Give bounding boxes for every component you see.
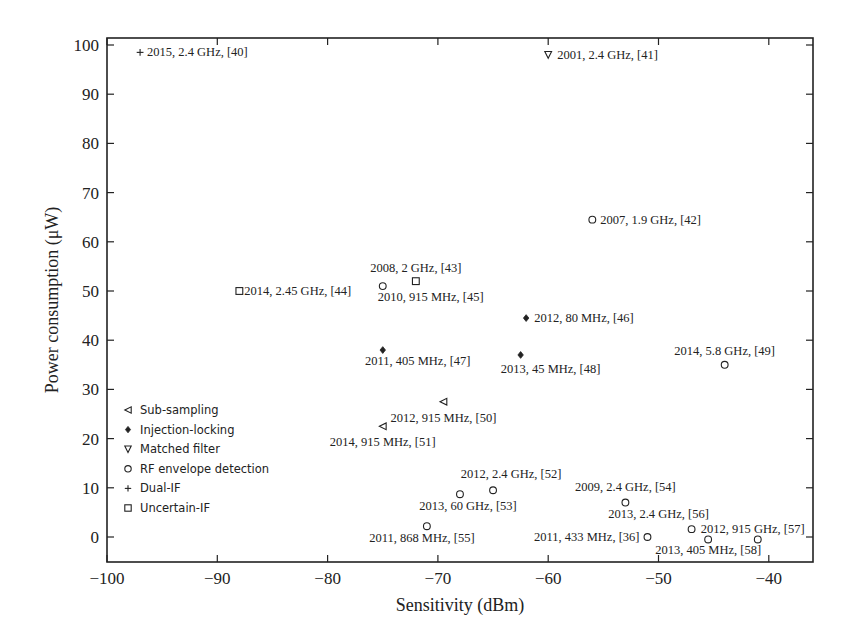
diamond-marker-icon (380, 347, 385, 354)
data-point: 2008, 2 GHz, [43] (370, 261, 461, 284)
y-tick-label: 100 (74, 36, 100, 55)
square-marker-icon (236, 288, 243, 295)
data-point-label: 2011, 433 MHz, [36] (534, 530, 639, 544)
triangle-down-marker-icon (545, 51, 552, 58)
data-point: 2013, 2.4 GHz, [56] (608, 507, 709, 532)
data-point: 2014, 2.45 GHz, [44] (236, 284, 351, 298)
y-tick-label: 10 (82, 479, 99, 498)
data-point-label: 2012, 915 GHz, [57] (701, 522, 805, 536)
triangle-left-marker-icon (125, 407, 131, 413)
legend-item: Uncertain-IF (125, 501, 210, 515)
series-matched-filter: 2001, 2.4 GHz, [41] (545, 48, 658, 62)
triangle-down-marker-icon (125, 446, 131, 452)
data-point-label: 2012, 2.4 GHz, [52] (461, 467, 562, 481)
data-point-label: 2014, 2.45 GHz, [44] (244, 284, 351, 298)
legend-item: Injection-locking (125, 423, 234, 437)
circle-marker-icon (705, 536, 712, 543)
data-point-label: 2008, 2 GHz, [43] (370, 261, 461, 275)
legend-item: RF envelope detection (125, 462, 269, 476)
x-tick-label: −40 (756, 569, 783, 588)
data-point-label: 2001, 2.4 GHz, [41] (557, 48, 658, 62)
y-axis-title: Power consumption (μW) (42, 207, 63, 394)
circle-marker-icon (644, 534, 651, 541)
plus-marker-icon (137, 49, 144, 56)
series-dual-if: 2015, 2.4 GHz, [40] (137, 45, 248, 59)
data-point-label: 2013, 405 MHz, [58] (655, 543, 761, 557)
square-marker-icon (125, 505, 131, 511)
data-point-label: 2013, 2.4 GHz, [56] (608, 507, 709, 521)
series-sub-sampling: 2012, 915 MHz, [50]2014, 915 MHz, [51] (330, 398, 497, 449)
scatter-chart: −100−90−80−70−60−50−40 01020304050607080… (0, 0, 855, 643)
circle-marker-icon (721, 361, 728, 368)
circle-marker-icon (379, 283, 386, 290)
data-point-label: 2014, 915 MHz, [51] (330, 435, 436, 449)
circle-marker-icon (688, 526, 695, 533)
triangle-left-marker-icon (440, 398, 447, 405)
x-tick-label: −80 (314, 569, 341, 588)
data-point-label: 2011, 868 MHz, [55] (369, 531, 474, 545)
data-point-label: 2007, 1.9 GHz, [42] (600, 213, 701, 227)
y-tick-label: 80 (82, 134, 99, 153)
legend: Sub-samplingInjection-lockingMatched fil… (125, 403, 269, 515)
y-tick-label: 90 (82, 85, 99, 104)
circle-marker-icon (125, 466, 131, 472)
data-point-label: 2009, 2.4 GHz, [54] (575, 480, 676, 494)
data-point: 2011, 405 MHz, [47] (365, 347, 470, 368)
data-point: 2012, 80 MHz, [46] (523, 311, 633, 325)
data-point: 2010, 915 MHz, [45] (378, 283, 484, 304)
circle-marker-icon (457, 491, 464, 498)
data-point: 2013, 60 GHz, [53] (419, 491, 517, 513)
y-tick-label: 60 (82, 233, 99, 252)
diamond-marker-icon (523, 315, 528, 322)
y-tick-label: 50 (82, 282, 99, 301)
diamond-marker-icon (518, 352, 523, 359)
legend-label: Injection-locking (140, 423, 234, 437)
data-points: 2012, 915 MHz, [50]2014, 915 MHz, [51]20… (137, 45, 805, 557)
legend-label: Uncertain-IF (140, 501, 210, 515)
y-tick-label: 40 (82, 331, 99, 350)
circle-marker-icon (490, 487, 497, 494)
y-tick-label: 30 (82, 380, 99, 399)
x-tick-label: −70 (425, 569, 452, 588)
data-point-label: 2012, 80 MHz, [46] (534, 311, 634, 325)
data-point: 2015, 2.4 GHz, [40] (137, 45, 248, 59)
square-marker-icon (412, 278, 419, 285)
x-tick-label: −100 (89, 569, 124, 588)
circle-marker-icon (754, 536, 761, 543)
y-tick-label: 20 (82, 430, 99, 449)
legend-item: Matched filter (125, 442, 220, 456)
data-point: 2012, 915 MHz, [50] (390, 398, 496, 424)
data-point: 2001, 2.4 GHz, [41] (545, 48, 658, 62)
legend-item: Sub-sampling (125, 403, 219, 417)
legend-label: RF envelope detection (140, 462, 269, 476)
data-point-label: 2013, 45 MHz, [48] (501, 362, 601, 376)
diamond-marker-icon (125, 426, 130, 432)
data-point-label: 2013, 60 GHz, [53] (419, 499, 517, 513)
data-point: 2014, 5.8 GHz, [49] (674, 344, 775, 368)
data-point: 2013, 405 MHz, [58] (655, 536, 761, 557)
x-tick-label: −60 (535, 569, 562, 588)
legend-label: Dual-IF (140, 481, 181, 495)
data-point: 2009, 2.4 GHz, [54] (575, 480, 676, 506)
data-point: 2012, 2.4 GHz, [52] (461, 467, 562, 493)
x-tick-label: −50 (645, 569, 672, 588)
data-point: 2012, 915 GHz, [57] (701, 522, 805, 542)
legend-item: Dual-IF (125, 481, 181, 495)
y-tick-label: 0 (91, 528, 100, 547)
data-point: 2014, 915 MHz, [51] (330, 423, 436, 449)
data-point: 2011, 433 MHz, [36] (534, 530, 651, 544)
triangle-left-marker-icon (379, 423, 386, 430)
series-injection-locking: 2012, 80 MHz, [46]2011, 405 MHz, [47]201… (365, 311, 634, 376)
data-point: 2013, 45 MHz, [48] (501, 352, 601, 376)
circle-marker-icon (589, 216, 596, 223)
data-point-label: 2011, 405 MHz, [47] (365, 354, 470, 368)
y-tick-label: 70 (82, 184, 99, 203)
legend-label: Sub-sampling (140, 403, 219, 417)
plus-marker-icon (125, 485, 131, 491)
circle-marker-icon (622, 499, 629, 506)
data-point-label: 2012, 915 MHz, [50] (390, 411, 496, 425)
data-point-label: 2010, 915 MHz, [45] (378, 290, 484, 304)
data-point: 2007, 1.9 GHz, [42] (589, 213, 701, 227)
x-tick-label: −90 (204, 569, 231, 588)
circle-marker-icon (423, 523, 430, 530)
